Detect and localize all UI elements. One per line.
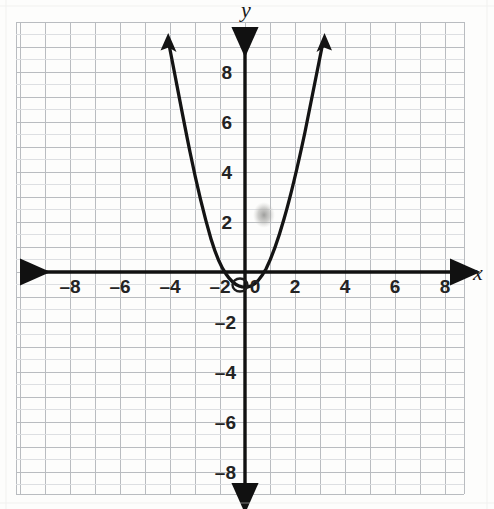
x-tick-labels: –8 –6 –4 –2 0 2 4 6 8: [59, 276, 450, 297]
y-tick-label: 8: [221, 62, 232, 83]
y-tick-label: 6: [221, 112, 232, 133]
coordinate-plane-figure: –8 –6 –4 –2 0 2 4 6 8 8 6 4 2 –2 –4 –6 –…: [0, 0, 494, 509]
x-tick-label: –6: [109, 276, 130, 297]
pencil-smudge: [253, 202, 275, 228]
x-tick-label: 0: [250, 276, 261, 297]
x-tick-label: –8: [59, 276, 80, 297]
y-axis-label: y: [239, 0, 251, 22]
x-tick-label: 2: [290, 276, 301, 297]
x-tick-label: 8: [440, 276, 451, 297]
x-tick-label: –4: [159, 276, 181, 297]
y-tick-label: 4: [221, 162, 232, 183]
y-tick-label: 2: [221, 212, 232, 233]
graph-page: –8 –6 –4 –2 0 2 4 6 8 8 6 4 2 –2 –4 –6 –…: [0, 0, 494, 509]
y-tick-label: –2: [215, 312, 236, 333]
y-tick-label: –6: [215, 412, 236, 433]
y-tick-label: –4: [215, 362, 237, 383]
x-axis-label: x: [472, 260, 483, 285]
y-tick-label: –8: [215, 462, 236, 483]
x-tick-label: 4: [340, 276, 351, 297]
x-tick-label: 6: [390, 276, 401, 297]
x-tick-label: –2: [209, 276, 230, 297]
